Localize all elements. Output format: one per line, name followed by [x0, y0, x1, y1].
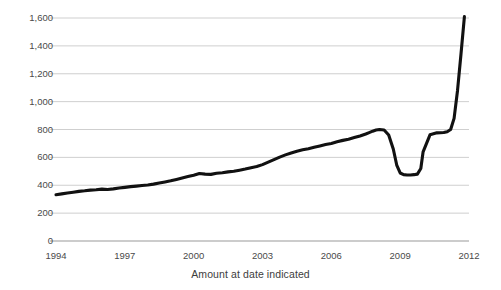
y-tick-label: 1,600	[7, 13, 53, 23]
x-axis-title: Amount at date indicated	[0, 268, 501, 280]
y-tick-label: 400	[7, 180, 53, 190]
x-tick-label: 2003	[243, 250, 283, 261]
data-series-line	[56, 17, 464, 195]
y-tick-label: 0	[7, 236, 53, 246]
y-tick-label: 200	[7, 208, 53, 218]
x-tick-label: 2009	[380, 250, 420, 261]
y-tick-label: 600	[7, 152, 53, 162]
x-tick-label: 1994	[36, 250, 76, 261]
y-tick-label: 1,400	[7, 41, 53, 51]
x-tick-label: 2012	[449, 250, 489, 261]
gridlines	[56, 18, 469, 213]
x-tick-label: 2006	[311, 250, 351, 261]
y-tick-label: 1,000	[7, 97, 53, 107]
chart-plot-area	[0, 0, 501, 290]
y-tick-label: 1,200	[7, 69, 53, 79]
line-chart: Billions of dollars 02004006008001,0001,…	[0, 0, 501, 290]
x-tick-label: 1997	[105, 250, 145, 261]
x-tick-label: 2000	[174, 250, 214, 261]
y-axis-tick-labels: 02004006008001,0001,2001,4001,600	[0, 0, 53, 290]
y-tick-label: 800	[7, 125, 53, 135]
